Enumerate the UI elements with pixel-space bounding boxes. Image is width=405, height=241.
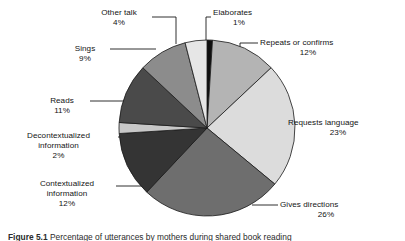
pie-label-elaborates-value: 1% (213, 18, 265, 28)
pie-label-decontextualized-information-value: 2% (2, 151, 115, 161)
pie-label-contextualized-information-value: 12% (20, 199, 114, 209)
pie-label-reads: Reads 11% (36, 96, 88, 116)
pie-label-sings-value: 9% (62, 54, 108, 64)
pie-label-elaborates-name: Elaborates (213, 8, 279, 18)
pie-label-decontextualized-information: Decontextualized information 2% (2, 131, 115, 161)
pie-label-contextualized-information: Contextualized information 12% (20, 179, 114, 209)
pie-label-reads-value: 11% (36, 106, 88, 116)
pie-label-repeats-or-confirms-value: 12% (260, 48, 356, 58)
pie-label-other-talk-value: 4% (88, 18, 150, 28)
figure-caption: Figure 5.1 Percentage of utterances by m… (8, 232, 400, 241)
pie-label-other-talk: Other talk 4% (88, 8, 150, 28)
pie-label-sings-name: Sings (62, 44, 108, 54)
pie-slices (119, 40, 295, 216)
pie-label-elaborates: Elaborates 1% (213, 8, 279, 28)
pie-label-gives-directions-value: 26% (280, 210, 372, 220)
pie-label-other-talk-name: Other talk (88, 8, 150, 18)
leader-line-elaborates (206, 17, 211, 41)
figure-caption-number: 5.1 (36, 232, 48, 241)
pie-label-gives-directions-name: Gives directions (280, 200, 380, 210)
pie-label-repeats-or-confirms-name: Repeats or confirms (260, 38, 366, 48)
pie-label-requests-language-name: Requests language (288, 118, 400, 128)
pie-label-contextualized-information-name-line1: Contextualized (20, 179, 114, 189)
pie-label-requests-language-value: 23% (288, 128, 388, 138)
pie-label-reads-name: Reads (36, 96, 88, 106)
pie-label-decontextualized-information-name-line2: information (2, 141, 115, 151)
pie-label-contextualized-information-name-line2: information (20, 189, 114, 199)
pie-label-repeats-or-confirms: Repeats or confirms 12% (260, 38, 366, 58)
pie-label-decontextualized-information-name-line1: Decontextualized (2, 131, 115, 141)
figure-caption-label: Figure (8, 232, 34, 241)
figure-container: Other talk 4% Elaborates 1% Repeats or c… (0, 0, 405, 241)
figure-caption-text: Percentage of utterances by mothers duri… (50, 232, 292, 241)
pie-label-gives-directions: Gives directions 26% (280, 200, 380, 220)
leader-line-other-talk (152, 17, 176, 44)
pie-label-sings: Sings 9% (62, 44, 108, 64)
pie-label-requests-language: Requests language 23% (288, 118, 400, 138)
